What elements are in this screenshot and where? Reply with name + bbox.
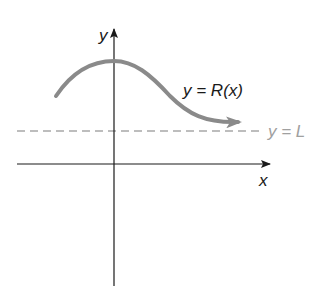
asymptote-label: y = L	[267, 122, 305, 141]
curve-label: y = R(x)	[182, 81, 243, 100]
x-axis-label: x	[258, 171, 268, 190]
y-axis-label: y	[98, 26, 109, 45]
function-graph: y x y = R(x) y = L	[0, 0, 325, 294]
